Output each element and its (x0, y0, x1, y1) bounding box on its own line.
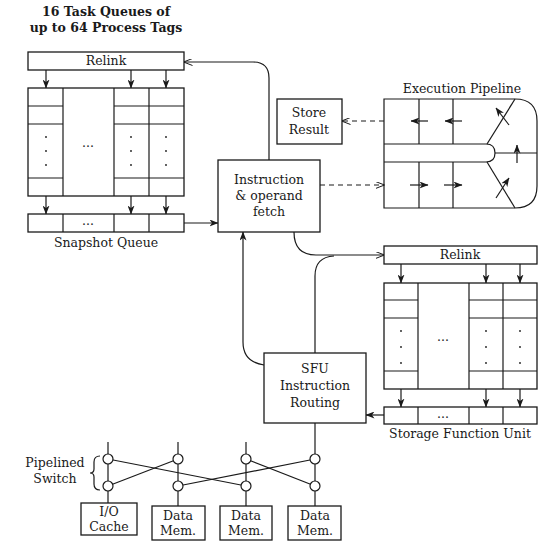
instruction-fetch-box: Instruction & operand fetch (218, 160, 320, 232)
relink-label-sfu: Relink (440, 247, 481, 262)
queue-ellipsis: ... (82, 135, 94, 150)
data-mem-box-1: Data Mem. (152, 506, 205, 540)
sfu-queue-grid: ... (384, 283, 537, 389)
snapshot-queue: ... (28, 213, 184, 232)
architecture-diagram: 16 Task Queues of up to 64 Process Tags … (0, 0, 560, 560)
snapshot-queue-label: Snapshot Queue (54, 235, 158, 250)
switch-node (173, 454, 183, 464)
data-mem-3-line1: Data (300, 508, 330, 523)
routing-line3: Routing (290, 395, 340, 410)
data-mem-3-line2: Mem. (297, 523, 333, 538)
switch-node (103, 481, 113, 491)
routing-line2: Instruction (280, 378, 350, 393)
sfu-output-ellipsis: ... (437, 406, 449, 421)
switch-node (241, 481, 251, 491)
sfu-routing-box: SFU Instruction Routing (264, 353, 366, 423)
switch-label-line1: Pipelined (25, 455, 84, 470)
data-mem-2-line1: Data (231, 508, 261, 523)
sfu-output-queue: ... (384, 406, 537, 424)
io-cache-line1: I/O (99, 504, 118, 519)
store-line1: Store (292, 105, 327, 120)
data-mem-box-2: Data Mem. (220, 506, 272, 540)
switch-node (310, 481, 320, 491)
task-queues-title-line2: up to 64 Process Tags (30, 20, 183, 35)
task-queues-title-line1: 16 Task Queues of (42, 4, 172, 19)
task-queues-group: 16 Task Queues of up to 64 Process Tags … (28, 4, 184, 250)
switch-node (310, 454, 320, 464)
pipeline-title: Execution Pipeline (403, 81, 521, 96)
brace-icon (90, 456, 100, 490)
data-mem-1-line2: Mem. (160, 523, 196, 538)
storage-function-unit-group: Relink ... ... (384, 246, 537, 441)
snapshot-ellipsis: ... (82, 213, 94, 228)
relink-feedback-arrow (184, 62, 269, 160)
switch-node (103, 454, 113, 464)
fetch-line1: Instruction (234, 172, 304, 187)
store-line2: Result (289, 122, 329, 137)
execution-pipeline: Execution Pipeline (384, 81, 537, 208)
switch-node (173, 481, 183, 491)
fetch-line3: fetch (253, 204, 285, 219)
io-cache-line2: Cache (89, 519, 128, 534)
fetch-to-sfu-relink-arrow (294, 232, 384, 255)
data-mem-1-line1: Data (163, 508, 193, 523)
relink-label-top: Relink (86, 53, 127, 68)
switch-node (241, 454, 251, 464)
storage-function-unit-label: Storage Function Unit (389, 426, 531, 441)
switch-label-line2: Switch (33, 471, 76, 486)
store-result-box: Store Result (277, 99, 342, 144)
sfu-queue-ellipsis: ... (437, 329, 449, 344)
arrow-up-left-icon (496, 108, 509, 125)
fetch-line2: & operand (235, 188, 303, 203)
pipelined-switch: Pipelined Switch (25, 423, 320, 506)
routing-to-fetch-arrow (243, 232, 264, 365)
routing-line1: SFU (301, 361, 329, 376)
io-cache-box: I/O Cache (81, 503, 137, 535)
data-mem-2-line2: Mem. (228, 523, 264, 538)
task-queue-grid: ... (28, 88, 184, 196)
sfu-to-relink-line (315, 256, 334, 353)
data-mem-box-3: Data Mem. (288, 506, 341, 540)
